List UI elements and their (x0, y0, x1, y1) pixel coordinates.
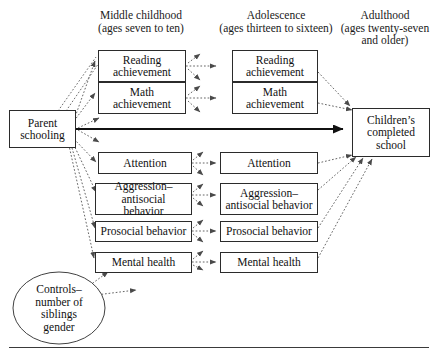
edge-parent-to-mc-mental (68, 141, 94, 258)
edge-parent-to-mc-reading (74, 61, 95, 120)
edge-mc-mental-out-down (193, 265, 203, 270)
node-line-1: Aggression– (223, 187, 314, 199)
node-line-2: achievement (244, 98, 306, 110)
edge-mc-attention-out-up (193, 152, 203, 160)
edge-ad-attention-to-outcome (318, 155, 352, 163)
node-line-1: Aggression– (98, 180, 189, 192)
node-childrens-completed-school[interactable]: Children’s completed school (352, 108, 430, 157)
edge-mc-mental-out-up (193, 251, 203, 259)
edge-parent-reciprocal-down (78, 130, 99, 142)
node-mc-math-achievement[interactable]: Math achievement (98, 82, 186, 114)
node-line-2: achievement (111, 98, 173, 110)
node-line-1: Mental health (235, 256, 303, 268)
node-line-1: Mental health (110, 256, 178, 268)
edge-mc-attention-out-down (193, 166, 203, 175)
edge-mc-reading-out-down (188, 69, 200, 80)
node-line-4: gender (19, 321, 99, 334)
edge-parent-top-feed-a (58, 57, 96, 111)
figure-canvas: Middle childhood (ages seven to ten) Ado… (0, 0, 438, 360)
node-line-2: schooling (18, 129, 67, 141)
edge-parent-to-mc-aggression (72, 141, 96, 192)
node-mc-aggression-antisocial[interactable]: Aggression– antisocial behavior (95, 183, 192, 215)
edge-mc-prosocial-out-down (193, 234, 203, 242)
node-line-1: Controls– (19, 283, 99, 296)
edge-mc-math-out-up (188, 86, 200, 95)
edge-parent-to-mc-math (74, 93, 95, 121)
node-line-2: number of (19, 296, 99, 309)
node-ad-aggression-antisocial[interactable]: Aggression– antisocial behavior (220, 183, 318, 215)
node-mc-reading-achievement[interactable]: Reading achievement (98, 50, 186, 82)
node-line-2: completed (365, 126, 417, 138)
node-line-3: school (365, 139, 417, 151)
node-ad-prosocial-behavior[interactable]: Prosocial behavior (220, 221, 318, 242)
node-line-1: Children’s (365, 114, 417, 126)
edge-mc-prosocial-out-up (193, 220, 203, 228)
edge-ad-mental-to-outcome (318, 159, 372, 258)
node-line-1: Reading (244, 54, 306, 66)
edge-parent-to-mc-prosocial (70, 141, 95, 228)
node-parent-schooling[interactable]: Parent schooling (9, 110, 76, 148)
edge-mc-aggression-out-up (193, 184, 203, 192)
node-line-1: Parent (18, 117, 67, 129)
node-line-1: Math (244, 86, 306, 98)
edge-mc-math-out-down (188, 101, 200, 112)
node-controls-label: Controls– number of siblings gender (19, 283, 99, 333)
edge-mc-aggression-out-down (193, 198, 203, 206)
edge-mc-reading-out-up (188, 54, 200, 63)
edge-ad-prosocial-to-outcome (318, 158, 363, 228)
node-ad-reading-achievement[interactable]: Reading achievement (232, 50, 318, 82)
node-line-2: antisocial behavior (223, 199, 314, 211)
node-ad-attention[interactable]: Attention (220, 152, 318, 174)
edge-ad-aggression-to-outcome (318, 157, 356, 190)
node-mc-mental-health[interactable]: Mental health (95, 252, 192, 273)
node-line-2: antisocial behavior (98, 193, 189, 218)
node-line-2: achievement (111, 66, 173, 78)
node-mc-attention[interactable]: Attention (98, 152, 192, 174)
node-line-1: Math (111, 86, 173, 98)
node-line-1: Prosocial behavior (99, 225, 189, 237)
node-mc-prosocial-behavior[interactable]: Prosocial behavior (95, 221, 192, 242)
node-line-1: Attention (245, 157, 292, 169)
node-ad-mental-health[interactable]: Mental health (220, 252, 318, 273)
edge-parent-to-mc-attention (74, 139, 96, 162)
node-line-3: siblings (19, 308, 99, 321)
edge-parent-reciprocal-up (78, 118, 99, 128)
bottom-divider (9, 347, 429, 348)
node-line-2: achievement (244, 66, 306, 78)
node-line-1: Prosocial behavior (224, 225, 314, 237)
node-line-1: Reading (111, 54, 173, 66)
node-ad-math-achievement[interactable]: Math achievement (232, 82, 318, 114)
edge-ad-reading-to-outcome (318, 72, 350, 106)
node-line-1: Attention (121, 157, 168, 169)
edge-ad-math-to-outcome (318, 103, 352, 110)
